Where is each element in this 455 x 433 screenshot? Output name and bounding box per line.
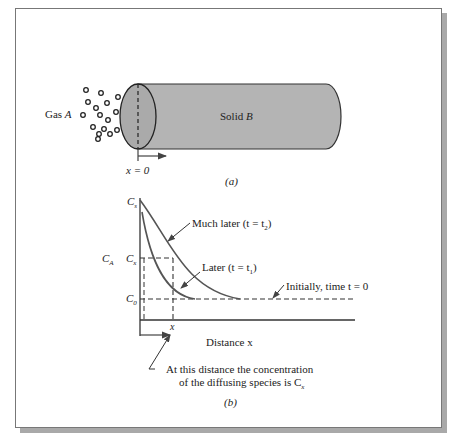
cx-label: Cx: [126, 252, 137, 267]
x-axis-label: Distance x: [206, 336, 253, 348]
gas-molecules: [81, 88, 121, 142]
curve-much-later: [140, 200, 240, 299]
solid-label: Solid B: [220, 110, 253, 122]
caption-b: (b): [224, 396, 237, 409]
c0-label: C0: [126, 292, 137, 307]
caption-a: (a): [225, 175, 238, 188]
diffusion-figure: Gas A Solid B x = 0 (a) Cs Cx C0 CA x Di…: [0, 0, 455, 433]
ca-label: CA: [102, 252, 114, 267]
gas-label: Gas A: [45, 108, 72, 120]
x-tick-label: x: [169, 321, 175, 332]
annotation-line2: of the diffusing species is Cx: [179, 376, 305, 391]
initial-label: Initially, time t = 0: [286, 280, 369, 292]
annotation-line1: At this distance the concentration: [166, 363, 314, 375]
curve-much-later-label: Much later (t = t2): [192, 217, 272, 232]
origin-label: x = 0: [125, 164, 150, 176]
cs-label: Cs: [127, 195, 137, 210]
curve-later-label: Later (t = t1): [202, 261, 257, 276]
